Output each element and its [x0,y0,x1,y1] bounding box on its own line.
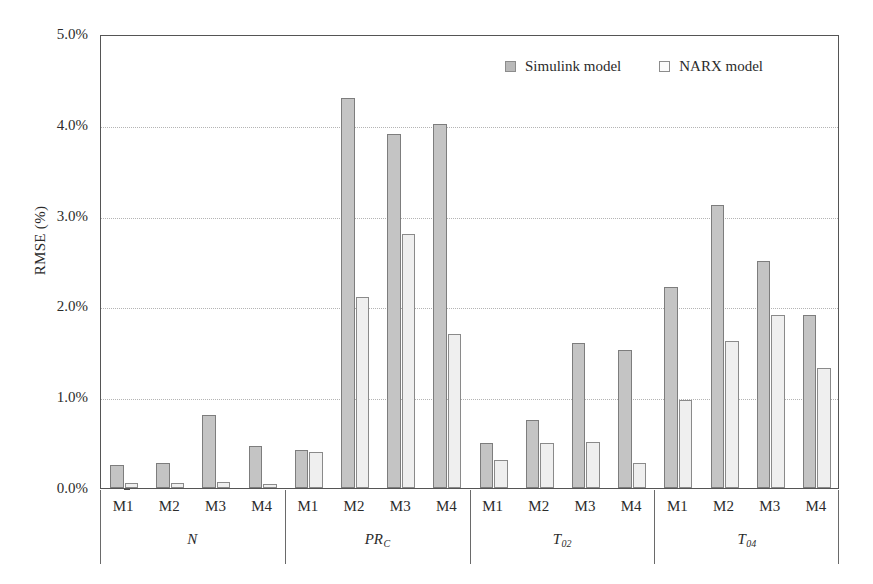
x-axis-group-N: M1M2M3M4N [100,489,285,579]
bar-T02-M4-simulink [618,350,632,488]
bar-PRC-M2-narx [356,297,370,488]
bar-T02-M3-simulink [572,343,586,488]
bar-PRC-M3-simulink [387,134,401,488]
x-axis-tick-row: M1M2M3M4 [654,498,839,515]
x-axis-tick-label: M1 [470,498,516,515]
x-axis-tick-row: M1M2M3M4 [100,498,285,515]
y-axis-tick-label: 5.0% [30,27,88,42]
x-axis-tick-label: M4 [239,498,285,515]
bar-T02-M2-simulink [526,420,540,488]
x-axis-tick-label: M3 [192,498,238,515]
x-axis-group-label: PRC [285,531,470,548]
x-axis-tick-label: M3 [562,498,608,515]
x-axis-group-PRC: M1M2M3M4PRC [285,489,470,579]
bar-T04-M2-narx [725,341,739,488]
x-axis-group-label: N [100,531,285,548]
legend-item-simulink[interactable]: Simulink model [505,58,621,75]
chart-legend: Simulink modelNARX model [505,58,763,75]
x-axis-tick-label: M3 [747,498,793,515]
bar-T02-M3-narx [586,442,600,488]
x-axis-tick-label: M1 [100,498,146,515]
bar-PRC-M4-narx [448,334,462,488]
plot-area [100,35,839,489]
bar-PRC-M1-narx [309,452,323,488]
group-label-subscript: 04 [746,538,756,549]
bar-N-M3-narx [217,482,231,488]
bar-N-M4-simulink [249,446,263,488]
bar-N-M2-narx [171,483,185,488]
x-axis-tick-label: M2 [146,498,192,515]
bar-T04-M3-narx [771,315,785,488]
x-axis-tick-label: M2 [331,498,377,515]
bar-N-M4-narx [263,484,277,488]
chart-figure: RMSE (%) 0.0%1.0%2.0%3.0%4.0%5.0% Simuli… [0,0,873,584]
x-axis-tick-label: M4 [793,498,839,515]
bar-T04-M4-narx [817,368,831,488]
y-axis-tick-label: 2.0% [30,299,88,314]
y-axis-tick-label: 4.0% [30,118,88,133]
bar-T02-M4-narx [633,463,647,488]
x-axis-tick-row: M1M2M3M4 [285,498,470,515]
x-axis-tick-label: M1 [654,498,700,515]
x-axis-group-T02: M1M2M3M4T02 [470,489,655,579]
bar-N-M2-simulink [156,463,170,488]
bar-PRC-M2-simulink [341,98,355,488]
x-axis-tick-label: M2 [700,498,746,515]
x-axis-group-label: T02 [470,531,655,548]
bar-T02-M2-narx [540,443,554,488]
x-axis-tick-label: M3 [377,498,423,515]
legend-item-narx[interactable]: NARX model [659,58,763,75]
x-axis-container: M1M2M3M4NM1M2M3M4PRCM1M2M3M4T02M1M2M3M4T… [100,489,839,579]
legend-label: NARX model [679,58,763,75]
bar-container [101,36,838,488]
x-axis-tick-row: M1M2M3M4 [470,498,655,515]
bar-N-M3-simulink [202,415,216,488]
bar-PRC-M4-simulink [433,124,447,488]
group-label-base: N [187,531,197,547]
bar-T04-M2-simulink [711,205,725,488]
bar-T02-M1-narx [494,460,508,488]
group-label-base: T [737,531,745,547]
group-label-base: T [553,531,561,547]
bar-T04-M1-simulink [664,287,678,488]
y-axis-tick-label: 0.0% [30,481,88,496]
y-axis-tick-label: 1.0% [30,390,88,405]
bar-T02-M1-simulink [480,443,494,488]
y-axis-tick-container: 0.0%1.0%2.0%3.0%4.0%5.0% [30,0,88,584]
y-axis-tick-label: 3.0% [30,209,88,224]
x-axis-tick-label: M4 [423,498,469,515]
group-label-subscript: C [383,538,390,549]
bar-T04-M4-simulink [803,315,817,488]
group-label-subscript: 02 [562,538,572,549]
group-label-base: PR [365,531,383,547]
x-axis-tick-label: M1 [285,498,331,515]
bar-T04-M1-narx [679,400,693,488]
x-axis-group-T04: M1M2M3M4T04 [654,489,839,579]
bar-T04-M3-simulink [757,261,771,488]
legend-swatch-simulink-icon [505,61,516,72]
bar-N-M1-narx [125,483,139,488]
x-axis-tick-label: M2 [516,498,562,515]
x-axis-tick-label: M4 [608,498,654,515]
legend-label: Simulink model [525,58,621,75]
bar-PRC-M1-simulink [295,450,309,488]
x-axis-group-label: T04 [654,531,839,548]
legend-swatch-narx-icon [659,61,670,72]
bar-PRC-M3-narx [402,234,416,488]
bar-N-M1-simulink [110,465,124,488]
